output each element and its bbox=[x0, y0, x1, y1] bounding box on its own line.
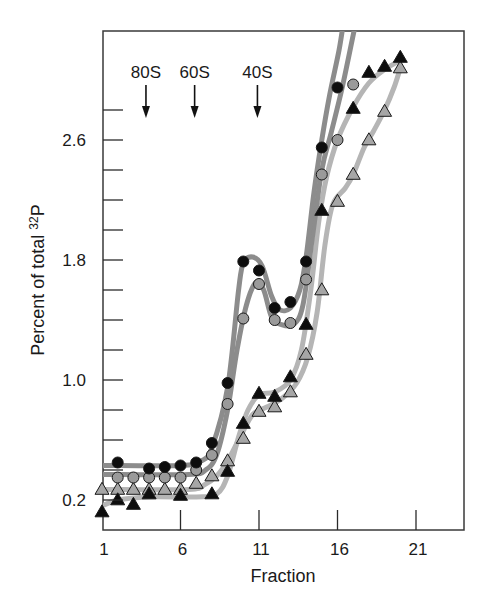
data-point bbox=[269, 315, 280, 326]
data-point bbox=[222, 399, 233, 410]
data-point bbox=[301, 256, 312, 267]
y-tick-label: 2.6 bbox=[62, 131, 86, 150]
data-point bbox=[112, 457, 123, 468]
down-arrow-icon bbox=[191, 85, 199, 118]
data-point bbox=[348, 79, 359, 90]
down-arrow-icon bbox=[253, 85, 261, 118]
data-point bbox=[112, 472, 123, 483]
annotation-40s: 40S bbox=[242, 63, 272, 118]
data-point bbox=[95, 505, 109, 517]
data-point bbox=[191, 457, 202, 468]
annotation-60s: 60S bbox=[180, 63, 210, 118]
x-tick-label: 21 bbox=[409, 540, 428, 559]
data-point bbox=[332, 135, 343, 146]
x-tick-label: 11 bbox=[252, 540, 270, 559]
data-point bbox=[175, 472, 186, 483]
annotation-80s: 80S bbox=[131, 63, 161, 118]
data-point bbox=[254, 265, 265, 276]
gray-triangles-points bbox=[95, 61, 407, 495]
x-tick-label: 6 bbox=[178, 540, 187, 559]
annotation-label: 40S bbox=[242, 63, 272, 82]
down-arrow-icon bbox=[142, 85, 150, 118]
y-axis-title: Percent of total 32P bbox=[27, 204, 48, 355]
y-tick-label: 0.2 bbox=[62, 491, 86, 510]
sedimentation-markers: 80S60S40S bbox=[131, 63, 273, 118]
data-point bbox=[285, 297, 296, 308]
chart-canvas: 80S60S40S 0.21.01.82.6 16111621 Fraction… bbox=[0, 0, 485, 603]
data-point bbox=[222, 378, 233, 389]
data-point bbox=[175, 460, 186, 471]
data-point bbox=[159, 472, 170, 483]
data-point bbox=[206, 450, 217, 461]
data-point bbox=[316, 169, 327, 180]
x-axis-ticks: 16111621 bbox=[99, 510, 427, 559]
data-point bbox=[301, 274, 312, 285]
x-tick-label: 1 bbox=[99, 540, 108, 559]
gray-triangles-curve bbox=[102, 68, 400, 490]
black-circles-curve bbox=[102, 20, 344, 466]
black-triangles-curve bbox=[102, 61, 400, 507]
data-point bbox=[189, 476, 203, 488]
data-point bbox=[332, 82, 343, 93]
y-axis-title-superscript: 32 bbox=[27, 216, 41, 230]
data-point bbox=[393, 50, 407, 62]
y-axis-title-main: Percent of total bbox=[28, 230, 48, 356]
x-axis-title: Fraction bbox=[250, 566, 315, 586]
data-point bbox=[238, 256, 249, 267]
data-point bbox=[206, 438, 217, 449]
series-markers bbox=[95, 50, 407, 517]
data-point bbox=[316, 142, 327, 153]
annotation-label: 80S bbox=[131, 63, 161, 82]
data-point bbox=[144, 463, 155, 474]
y-tick-label: 1.0 bbox=[62, 371, 86, 390]
data-point bbox=[315, 283, 329, 295]
data-point bbox=[238, 313, 249, 324]
data-point bbox=[269, 303, 280, 314]
data-point bbox=[254, 279, 265, 290]
data-point bbox=[159, 462, 170, 473]
x-tick-label: 16 bbox=[330, 540, 349, 559]
data-point bbox=[378, 104, 392, 116]
black-triangles-points bbox=[95, 50, 407, 517]
annotation-label: 60S bbox=[180, 63, 210, 82]
y-axis-ticks: 0.21.01.82.6 bbox=[62, 110, 123, 510]
plot-area: 80S60S40S 0.21.01.82.6 16111621 bbox=[62, 20, 464, 559]
data-point bbox=[362, 65, 376, 77]
y-tick-label: 1.8 bbox=[62, 251, 86, 270]
data-point bbox=[128, 472, 139, 483]
y-axis-title-tail: P bbox=[28, 204, 48, 216]
plot-frame bbox=[103, 31, 464, 530]
data-point bbox=[285, 318, 296, 329]
